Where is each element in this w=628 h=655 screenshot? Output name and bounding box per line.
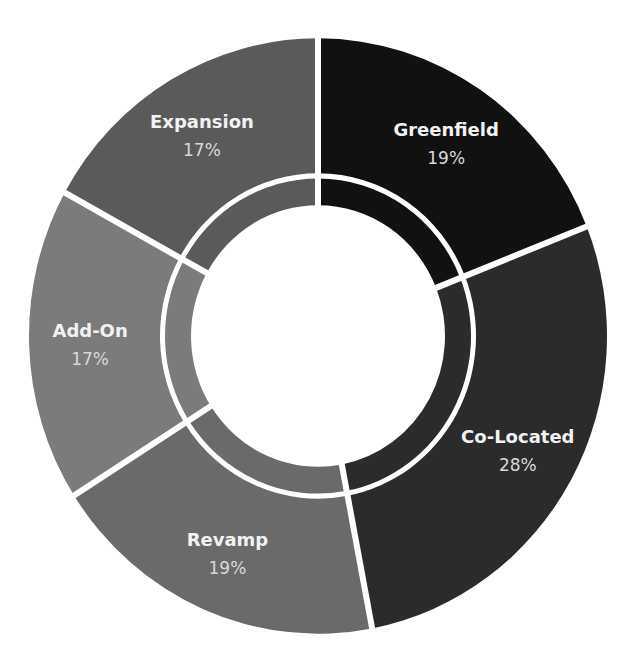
slice-label-revamp: Revamp bbox=[187, 529, 269, 550]
slice-label-co-located: Co-Located bbox=[461, 426, 574, 447]
slice-percent-revamp: 19% bbox=[209, 558, 247, 578]
slice-label-add-on: Add-On bbox=[52, 320, 127, 341]
slice-percent-co-located: 28% bbox=[499, 455, 537, 475]
slice-percent-expansion: 17% bbox=[183, 140, 221, 160]
inner-slice-add-on bbox=[165, 260, 211, 420]
slice-percent-greenfield: 19% bbox=[427, 148, 465, 168]
slice-label-greenfield: Greenfield bbox=[393, 119, 499, 140]
slice-label-expansion: Expansion bbox=[150, 111, 254, 132]
inner-ring bbox=[165, 178, 471, 493]
donut-chart: Greenfield19%Co-Located28%Revamp19%Add-O… bbox=[0, 0, 628, 655]
slice-percent-add-on: 17% bbox=[71, 349, 109, 369]
